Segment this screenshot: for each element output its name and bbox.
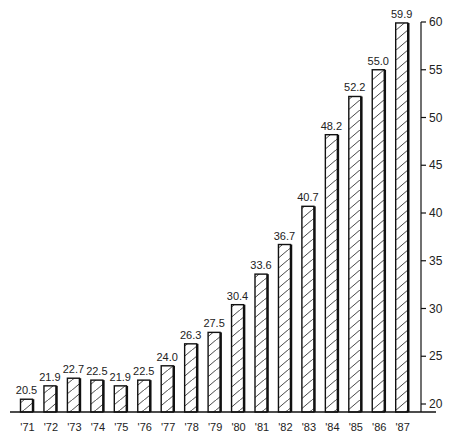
bar-value-label: 59.9 <box>391 8 412 20</box>
x-tick-label: '81 <box>255 421 269 433</box>
x-tick-label: '85 <box>349 421 363 433</box>
bar <box>372 70 385 412</box>
bar <box>302 206 315 412</box>
y-tick-label: 25 <box>429 349 443 363</box>
y-tick-label: 40 <box>429 206 443 220</box>
bar-value-label: 21.9 <box>39 371 60 383</box>
y-axis-ticks: 202530354045505560 <box>421 15 443 411</box>
x-tick-label: '80 <box>231 421 245 433</box>
bar <box>396 23 409 412</box>
x-tick-label: '71 <box>20 421 34 433</box>
x-tick-label: '76 <box>138 421 152 433</box>
bar <box>44 386 57 412</box>
bar-value-label: 33.6 <box>250 259 271 271</box>
y-tick-label: 30 <box>429 302 443 316</box>
bar-value-label: 48.2 <box>321 120 342 132</box>
bar-value-label: 20.5 <box>16 384 37 396</box>
bar <box>91 380 104 412</box>
y-tick-label: 60 <box>429 15 443 29</box>
bar <box>114 386 127 412</box>
bar-chart: 20.521.922.722.521.922.524.026.327.530.4… <box>0 0 453 439</box>
bar <box>278 245 291 412</box>
x-tick-label: '87 <box>396 421 410 433</box>
x-tick-label: '75 <box>114 421 128 433</box>
y-tick-label: 35 <box>429 254 443 268</box>
x-axis-labels: '71'72'73'74'75'76'77'78'79'80'81'82'83'… <box>20 421 410 433</box>
bar-value-label: 24.0 <box>156 351 177 363</box>
x-tick-label: '72 <box>44 421 58 433</box>
bar-value-label: 26.3 <box>180 329 201 341</box>
x-tick-label: '83 <box>302 421 316 433</box>
y-tick-label: 20 <box>429 397 443 411</box>
x-tick-label: '79 <box>208 421 222 433</box>
x-tick-label: '73 <box>67 421 81 433</box>
bar-value-label: 40.7 <box>297 191 318 203</box>
bar-value-label: 22.7 <box>63 363 84 375</box>
bar <box>232 305 245 412</box>
bar <box>138 380 151 412</box>
x-tick-label: '84 <box>325 421 339 433</box>
bar <box>185 344 198 412</box>
x-tick-label: '86 <box>372 421 386 433</box>
bar <box>21 399 34 412</box>
bar <box>161 366 174 412</box>
bar-value-label: 21.9 <box>110 371 131 383</box>
y-tick-label: 55 <box>429 63 443 77</box>
bar <box>208 332 221 412</box>
bar <box>67 378 80 412</box>
bar <box>349 96 362 412</box>
x-tick-label: '74 <box>91 421 105 433</box>
x-tick-label: '78 <box>184 421 198 433</box>
x-tick-label: '77 <box>161 421 175 433</box>
bar <box>255 274 268 412</box>
bar <box>325 135 338 412</box>
bar-value-label: 22.5 <box>86 365 107 377</box>
bar-value-label: 22.5 <box>133 365 154 377</box>
bar-value-label: 52.2 <box>344 81 365 93</box>
y-tick-label: 45 <box>429 158 443 172</box>
x-tick-label: '82 <box>278 421 292 433</box>
bar-value-label: 55.0 <box>368 55 389 67</box>
bar-value-label: 27.5 <box>203 317 224 329</box>
bar-value-label: 36.7 <box>274 230 295 242</box>
bar-value-label: 30.4 <box>227 290 248 302</box>
y-tick-label: 50 <box>429 111 443 125</box>
